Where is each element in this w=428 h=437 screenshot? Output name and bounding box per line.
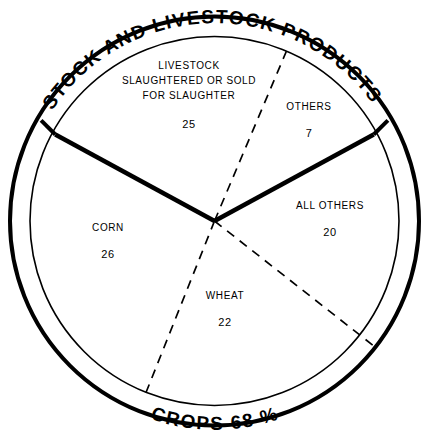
- slice-label-others-name: OTHERS: [276, 100, 342, 114]
- slice-value-wheat: 22: [185, 315, 265, 330]
- slice-label-livestock-slaughtered-line3: FOR SLAUGHTER: [104, 88, 274, 103]
- slice-label-all-others: ALL OTHERS 20: [280, 199, 380, 239]
- slice-label-all-others-name: ALL OTHERS: [280, 199, 380, 213]
- slice-value-corn: 26: [68, 247, 148, 262]
- pie-chart: LIVESTOCK AND LIVESTOCK PRODUCTS 32 % CR…: [0, 0, 428, 437]
- slice-label-wheat: WHEAT 22: [185, 289, 265, 329]
- slice-label-wheat-name: WHEAT: [185, 289, 265, 303]
- slice-value-livestock-slaughtered: 25: [104, 117, 274, 132]
- slice-label-others: OTHERS 7: [276, 100, 342, 140]
- slice-value-all-others: 20: [280, 225, 380, 240]
- slice-label-livestock-slaughtered: LIVESTOCK SLAUGHTERED OR SOLD FOR SLAUGH…: [104, 58, 274, 132]
- slice-label-livestock-slaughtered-line1: LIVESTOCK: [104, 58, 274, 73]
- slice-value-others: 7: [276, 126, 342, 141]
- slice-label-corn: CORN 26: [68, 221, 148, 261]
- slice-label-livestock-slaughtered-line2: SLAUGHTERED OR SOLD: [104, 73, 274, 88]
- slice-label-corn-name: CORN: [68, 221, 148, 235]
